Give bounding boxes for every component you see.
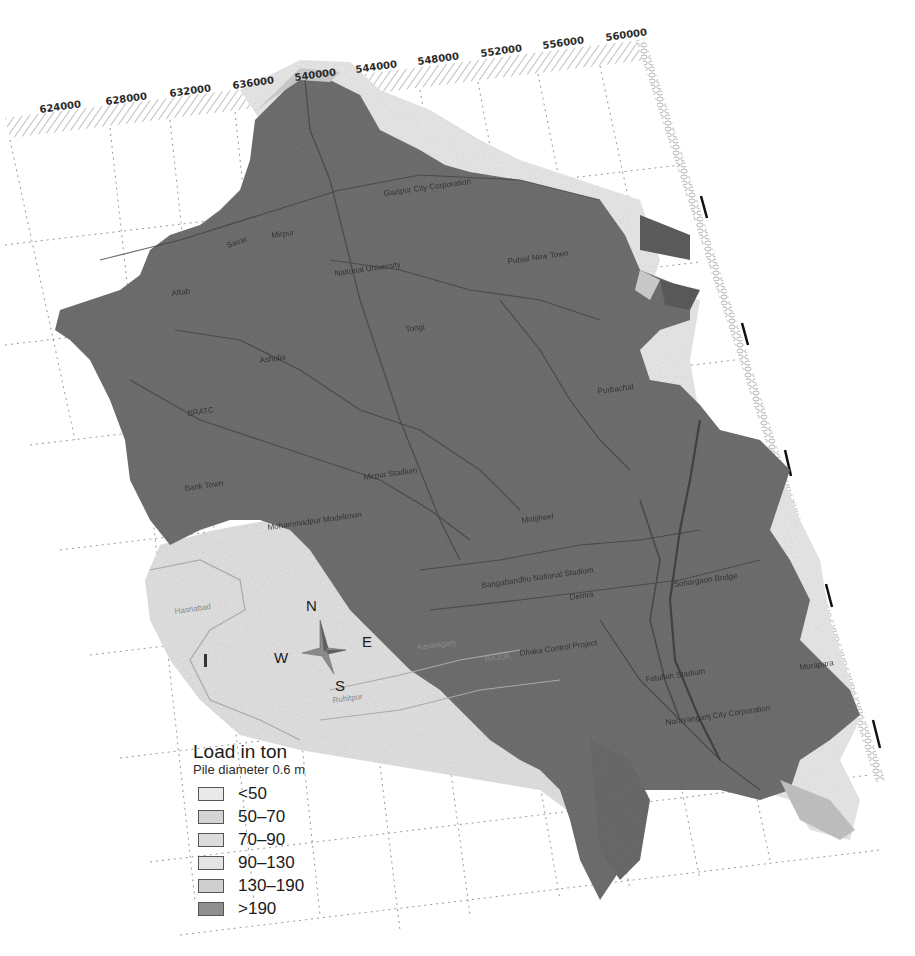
legend-swatch — [198, 879, 224, 893]
compass-east: E — [362, 633, 372, 650]
legend-item: 130–190 — [193, 874, 373, 897]
legend-label: <50 — [238, 784, 267, 804]
legend-label: 130–190 — [238, 876, 304, 896]
map-canvas: 624000 628000 632000 636000 540000 54400… — [0, 0, 915, 956]
compass-south: S — [335, 677, 345, 694]
tick-label: 560000 — [605, 26, 648, 43]
legend-label: >190 — [238, 899, 276, 919]
legend-swatch — [198, 833, 224, 847]
compass-north: N — [306, 597, 317, 614]
legend-label: 70–90 — [238, 830, 285, 850]
compass-west: W — [274, 649, 289, 666]
legend-subtitle: Pile diameter 0.6 m — [193, 762, 373, 778]
legend-item: 90–130 — [193, 851, 373, 874]
map-marker — [204, 654, 207, 667]
legend-item: <50 — [193, 782, 373, 805]
legend: Load in ton Pile diameter 0.6 m <50 50–7… — [193, 742, 373, 920]
legend-item: 50–70 — [193, 805, 373, 828]
legend-item: 70–90 — [193, 828, 373, 851]
legend-swatch — [198, 902, 224, 916]
legend-title: Load in ton — [193, 742, 373, 762]
legend-swatch — [198, 856, 224, 870]
legend-swatch — [198, 810, 224, 824]
legend-label: 50–70 — [238, 807, 285, 827]
legend-item: >190 — [193, 897, 373, 920]
legend-swatch — [198, 787, 224, 801]
legend-label: 90–130 — [238, 853, 295, 873]
